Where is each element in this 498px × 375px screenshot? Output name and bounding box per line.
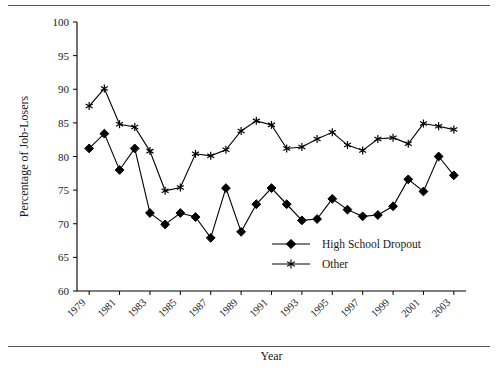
- y-tick-label: 75: [58, 184, 70, 196]
- data-point-dropout[interactable]: [146, 209, 155, 218]
- y-tick-label: 70: [58, 218, 70, 230]
- data-point-dropout[interactable]: [206, 233, 215, 242]
- x-tick-label: 1983: [126, 297, 149, 320]
- x-tick-label: 1985: [156, 297, 179, 320]
- x-axis-title: Year: [260, 349, 282, 363]
- y-tick-label: 100: [53, 16, 70, 28]
- y-axis-title: Percentage of Job-Losers: [17, 96, 31, 218]
- legend-label-other: Other: [322, 258, 348, 270]
- data-point-dropout[interactable]: [358, 212, 367, 221]
- x-tick-label: 1981: [95, 297, 118, 320]
- x-tick-label: 1991: [247, 297, 270, 320]
- series-line-other: [89, 89, 454, 191]
- y-tick-label: 60: [58, 285, 70, 297]
- data-point-dropout[interactable]: [389, 202, 398, 211]
- x-tick-label: 2001: [399, 297, 422, 320]
- x-tick-label: 2003: [430, 297, 453, 320]
- data-point-dropout[interactable]: [191, 213, 200, 222]
- x-tick-label: 1989: [217, 297, 240, 320]
- data-point-dropout[interactable]: [130, 144, 139, 153]
- x-tick-label: 1979: [65, 297, 88, 320]
- data-point-dropout[interactable]: [161, 220, 170, 229]
- legend-label-dropout: High School Dropout: [322, 238, 422, 251]
- plot-axes: [77, 22, 466, 291]
- data-point-dropout[interactable]: [313, 215, 322, 224]
- data-point-dropout[interactable]: [373, 211, 382, 220]
- x-tick-label: 1997: [338, 297, 361, 320]
- data-point-dropout[interactable]: [115, 166, 124, 175]
- data-point-dropout[interactable]: [176, 209, 185, 218]
- y-tick-label: 95: [58, 50, 70, 62]
- y-tick-label: 80: [58, 151, 70, 163]
- data-point-dropout[interactable]: [328, 194, 337, 203]
- y-tick-label: 65: [58, 251, 70, 263]
- data-point-dropout[interactable]: [237, 227, 246, 236]
- y-tick-label: 85: [58, 117, 70, 129]
- x-tick-label: 1999: [369, 297, 392, 320]
- x-tick-label: 1987: [187, 297, 210, 320]
- x-tick-label: 1995: [308, 297, 331, 320]
- y-tick-label: 90: [58, 83, 70, 95]
- figure-container: 6065707580859095100197919811983198519871…: [0, 0, 498, 375]
- x-tick-label: 1993: [278, 297, 301, 320]
- data-point-dropout[interactable]: [343, 205, 352, 214]
- chart-canvas: 6065707580859095100197919811983198519871…: [0, 0, 498, 375]
- data-point-dropout[interactable]: [222, 184, 231, 193]
- line-chart: 6065707580859095100197919811983198519871…: [0, 0, 498, 375]
- legend-marker-dropout: [286, 239, 295, 248]
